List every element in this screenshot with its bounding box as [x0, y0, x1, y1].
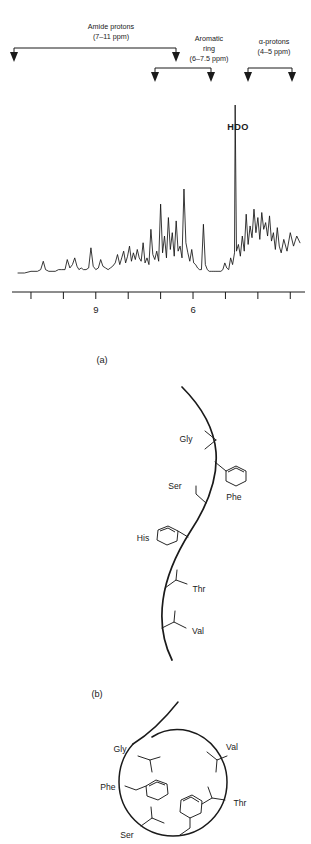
aromatic-ring-linker-b	[180, 818, 190, 835]
val-label-b: Val	[226, 742, 238, 752]
alpha-arrow-left	[244, 72, 252, 82]
thr-label-b: Thr	[234, 798, 247, 808]
residue-val-a: Val	[162, 611, 204, 636]
ser-label-b: Ser	[120, 830, 134, 840]
thr-label-a: Thr	[193, 584, 206, 594]
aromatic-ring-title-line1: Aromatic	[195, 34, 224, 43]
gly-label-b: Gly	[114, 744, 128, 754]
ser-label-a: Ser	[168, 481, 182, 491]
phe-label-b: Phe	[100, 782, 116, 792]
aromatic-ring-title-line2: ring	[203, 44, 215, 53]
aromatic-ring-core-b	[180, 795, 202, 818]
his-linker-a	[178, 531, 188, 537]
amide-bracket	[14, 48, 176, 52]
aromatic-bracket	[155, 68, 211, 72]
ser-sidechain-glyph	[196, 486, 206, 503]
globule-outline-b	[119, 730, 227, 836]
val-label-a: Val	[192, 626, 204, 636]
axis-tick-group: 96	[31, 292, 290, 315]
amide-arrow-right	[172, 52, 180, 62]
alpha-protons-range: (4–5 ppm)	[258, 47, 291, 56]
spectrum-trace	[18, 105, 300, 273]
nmr-protein-figure: Amide protons (7–11 ppm) Aromatic ring (…	[0, 0, 311, 844]
axis-tick-label: 6	[190, 304, 195, 315]
residue-phe-b: Phe	[100, 780, 168, 800]
residue-phe-a: Phe	[215, 462, 246, 502]
ppm-axis: 96	[12, 292, 305, 315]
hdo-peak-label: HDO	[227, 122, 248, 132]
nmr-spectrum-plot: HDO	[18, 105, 300, 273]
aromatic-arrow-right	[207, 72, 215, 82]
his-label-a: His	[137, 533, 149, 543]
annotation-alpha-protons: α-protons (4–5 ppm)	[244, 37, 296, 82]
residue-ser-b: Ser	[120, 807, 164, 840]
aromatic-arrow-left	[151, 72, 159, 82]
amide-arrow-left	[10, 52, 18, 62]
axis-tick-label: 9	[93, 304, 98, 315]
annotation-amide-protons: Amide protons (7–11 ppm)	[10, 22, 180, 62]
residue-val-b: Val	[207, 742, 238, 772]
annotation-aromatic-ring: Aromatic ring (6–7.5 ppm)	[151, 34, 228, 82]
gly-label-a: Gly	[180, 434, 194, 444]
polypeptide-backbone-extended	[162, 387, 216, 660]
thr-sidechain-b	[202, 787, 225, 804]
phe-label-a: Phe	[226, 492, 242, 502]
panel-a-diagram: Gly Phe Ser His	[137, 387, 246, 660]
alpha-arrow-right	[288, 72, 296, 82]
val-sidechain-glyph	[162, 611, 186, 628]
residue-thr-a: Thr	[165, 570, 206, 594]
amide-protons-title: Amide protons	[88, 22, 135, 31]
phe-linker-b	[125, 786, 146, 790]
panel-a-label: (a)	[96, 355, 107, 365]
phe-benzene-ring-b	[146, 780, 168, 800]
amide-protons-range: (7–11 ppm)	[93, 32, 129, 41]
residue-gly-a: Gly	[180, 431, 216, 449]
protein-tail-b	[133, 702, 178, 744]
his-ring-a	[157, 526, 178, 545]
ser-sidechain-b	[141, 807, 164, 826]
residue-ser-a: Ser	[168, 481, 206, 503]
phe-benzene-ring-a	[226, 466, 246, 486]
alpha-bracket	[248, 68, 292, 72]
alpha-protons-title: α-protons	[259, 37, 290, 46]
panel-b-diagram: Gly Val Phe Thr Ser	[100, 702, 246, 840]
gly-sidechain-b	[138, 756, 160, 772]
figure-canvas: Amide protons (7–11 ppm) Aromatic ring (…	[0, 0, 311, 844]
residue-his-a: His	[137, 526, 188, 545]
aromatic-ring-range: (6–7.5 ppm)	[190, 54, 229, 63]
panel-b-label: (b)	[91, 689, 102, 699]
